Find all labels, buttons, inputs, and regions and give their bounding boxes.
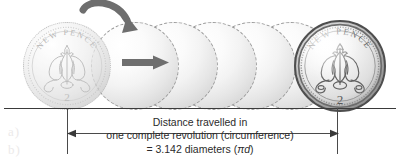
end-coin: NEW PENCE 2 xyxy=(294,20,386,112)
caption-line-2: one complete revolution (circumference) xyxy=(0,129,400,142)
caption-formula-symbol: πd xyxy=(237,143,250,155)
coin-face-artwork-end: NEW PENCE 2 xyxy=(296,22,384,110)
svg-text:2: 2 xyxy=(64,91,70,103)
caption-line-1: Distance travelled in xyxy=(0,116,400,129)
straight-travel-arrow xyxy=(122,53,174,73)
coin-circumference-figure: a) b) NEW PENCE xyxy=(0,0,400,165)
caption-line-3: = 3.142 diameters (πd) xyxy=(0,143,400,156)
caption-formula-suffix: ) xyxy=(250,143,254,155)
curved-rotation-arrow xyxy=(78,0,148,58)
caption-formula-prefix: = 3.142 diameters ( xyxy=(146,143,237,155)
